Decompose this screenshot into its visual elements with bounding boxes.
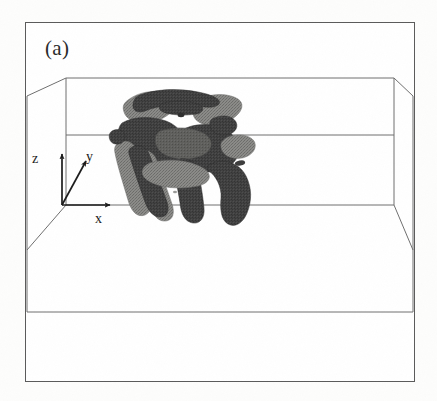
axis-label-y: y — [86, 150, 93, 164]
isosurface-cluster — [109, 90, 255, 226]
iso-lobe-mid-bridge — [155, 128, 211, 159]
box-edge-recede-bottom-right — [394, 205, 413, 250]
scene-canvas — [0, 0, 437, 401]
axis-label-x: x — [95, 212, 102, 226]
panel-label: (a) — [45, 38, 69, 59]
iso-speck-upper — [178, 113, 185, 117]
figure-root: (a) z y x — [0, 0, 437, 401]
axis-label-z: z — [32, 152, 38, 166]
iso-trunk-dark-right — [207, 161, 250, 225]
box-edge-recede-bottom-left — [27, 205, 66, 250]
iso-sliver-dark-far-left — [109, 130, 125, 145]
iso-speck-bottom — [173, 191, 177, 194]
box-edge-recede-top-right — [394, 78, 413, 96]
iso-lobe-dark-wedge-right — [210, 116, 237, 135]
iso-lobe-light-flange-right — [221, 135, 255, 159]
box-edge-recede-top-left — [27, 78, 66, 96]
